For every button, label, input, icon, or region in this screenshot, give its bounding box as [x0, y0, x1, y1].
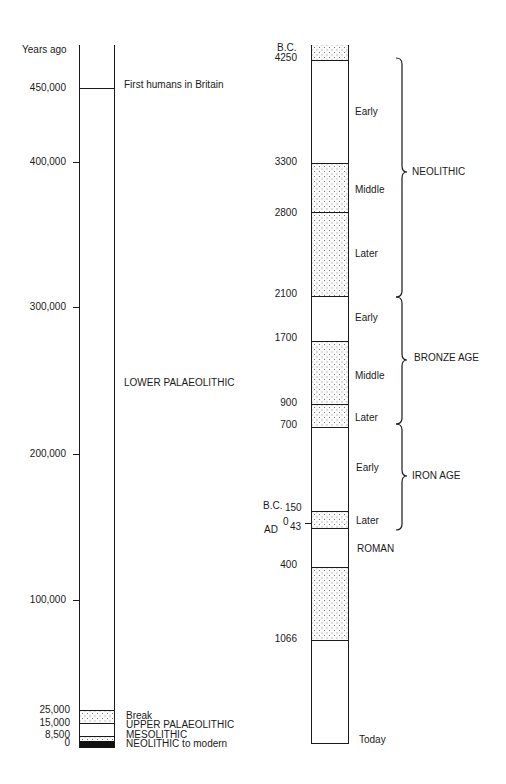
- era-braces: [0, 0, 506, 784]
- era-bronze-age: BRONZE AGE: [414, 352, 479, 364]
- era-neolithic: NEOLITHIC: [412, 166, 465, 178]
- brace-bronze-age: [396, 297, 407, 424]
- era-iron-age: IRON AGE: [412, 470, 460, 482]
- brace-iron-age: [396, 424, 407, 530]
- brace-neolithic: [396, 58, 407, 297]
